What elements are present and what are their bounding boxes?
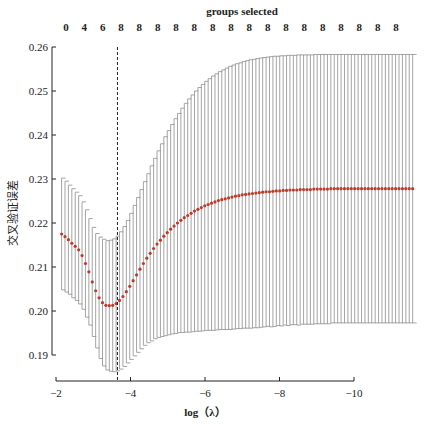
mean-point <box>77 248 80 251</box>
top-tick-label: 8 <box>118 21 124 33</box>
mean-point <box>336 187 339 190</box>
top-tick-label: 8 <box>320 21 326 33</box>
mean-point <box>346 187 349 190</box>
mean-point <box>292 188 295 191</box>
mean-point <box>237 194 240 197</box>
x-tick-label: −8 <box>274 387 286 399</box>
top-tick-label: 8 <box>210 21 216 33</box>
mean-point <box>179 219 182 222</box>
mean-point <box>275 189 278 192</box>
x-tick-label: −2 <box>50 387 62 399</box>
mean-point <box>309 188 312 191</box>
mean-point <box>408 187 411 190</box>
mean-point <box>299 188 302 191</box>
mean-point <box>380 187 383 190</box>
mean-point <box>200 206 203 209</box>
mean-point <box>132 279 135 282</box>
mean-point <box>363 187 366 190</box>
top-tick-label: 8 <box>265 21 271 33</box>
mean-point <box>282 189 285 192</box>
mean-point <box>404 187 407 190</box>
mean-point <box>149 252 152 255</box>
top-tick-label: 8 <box>173 21 179 33</box>
mean-point <box>329 187 332 190</box>
mean-point <box>268 190 271 193</box>
mean-point <box>326 188 329 191</box>
mean-point <box>207 203 210 206</box>
mean-point <box>176 221 179 224</box>
mean-point <box>322 188 325 191</box>
mean-point <box>305 188 308 191</box>
mean-point <box>84 262 87 265</box>
mean-point <box>258 191 261 194</box>
top-tick-label: 6 <box>100 21 106 33</box>
x-tick-label: −4 <box>125 387 137 399</box>
mean-point <box>377 187 380 190</box>
mean-point <box>316 188 319 191</box>
top-axis-title: groups selected <box>206 5 278 17</box>
mean-point <box>196 208 199 211</box>
mean-point <box>367 187 370 190</box>
mean-point <box>108 304 111 307</box>
mean-point <box>241 193 244 196</box>
mean-point <box>80 254 83 257</box>
mean-point <box>203 204 206 207</box>
mean-point <box>159 239 162 242</box>
y-tick-label: 0.23 <box>29 173 49 185</box>
y-tick-label: 0.26 <box>29 41 49 53</box>
top-axis: groups selected 0468888888888888888 <box>63 5 399 33</box>
mean-point <box>295 188 298 191</box>
y-tick-label: 0.21 <box>29 261 48 273</box>
y-tick-label: 0.20 <box>29 305 49 317</box>
cv-error-chart: 0.190.200.210.220.230.240.250.26 −2−4−6−… <box>0 0 424 430</box>
mean-point <box>74 245 77 248</box>
mean-point <box>261 191 264 194</box>
mean-point <box>162 235 165 238</box>
mean-point <box>397 187 400 190</box>
mean-point <box>166 231 169 234</box>
y-tick-label: 0.25 <box>29 85 49 97</box>
mean-point <box>70 242 73 245</box>
mean-point <box>210 202 213 205</box>
y-axis: 0.190.200.210.220.230.240.250.26 <box>29 41 56 361</box>
mean-point <box>374 187 377 190</box>
mean-point <box>155 243 158 246</box>
mean-point <box>169 228 172 231</box>
mean-point <box>339 187 342 190</box>
x-axis: −2−4−6−8−10 <box>50 377 363 399</box>
mean-point <box>357 187 360 190</box>
mean-point <box>271 190 274 193</box>
mean-point <box>285 189 288 192</box>
mean-point <box>91 280 94 283</box>
top-tick-label: 8 <box>338 21 344 33</box>
mean-point <box>264 190 267 193</box>
mean-point <box>251 192 254 195</box>
top-tick-label: 8 <box>137 21 143 33</box>
top-tick-label: 8 <box>228 21 234 33</box>
mean-point <box>247 192 250 195</box>
mean-point <box>244 193 247 196</box>
y-tick-label: 0.24 <box>29 129 49 141</box>
mean-point <box>87 270 90 273</box>
mean-point <box>370 187 373 190</box>
top-tick-label: 8 <box>375 21 381 33</box>
mean-point <box>234 195 237 198</box>
mean-point <box>142 262 145 265</box>
mean-point <box>128 285 131 288</box>
mean-point <box>94 289 97 292</box>
mean-point <box>384 187 387 190</box>
top-tick-label: 8 <box>302 21 308 33</box>
mean-point <box>387 187 390 190</box>
mean-point <box>394 187 397 190</box>
x-tick-label: −6 <box>199 387 211 399</box>
mean-point <box>411 187 414 190</box>
top-tick-label: 8 <box>283 21 289 33</box>
mean-point <box>353 187 356 190</box>
mean-point <box>254 191 257 194</box>
mean-point <box>97 296 100 299</box>
mean-point <box>104 304 107 307</box>
mean-point <box>312 188 315 191</box>
mean-point <box>333 187 336 190</box>
mean-point <box>343 187 346 190</box>
mean-point <box>152 247 155 250</box>
